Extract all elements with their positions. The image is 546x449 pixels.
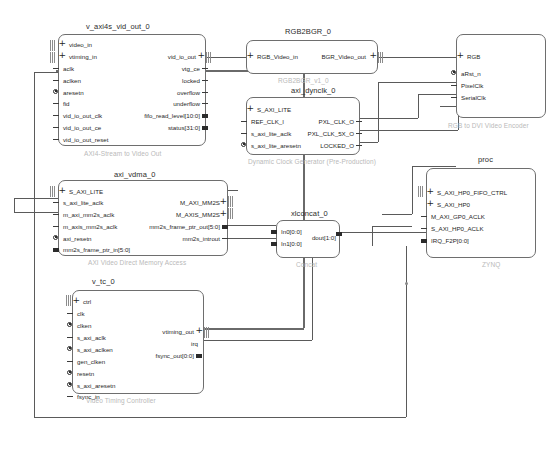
pin-mm2s-frame-ptr-out[interactable] (222, 223, 229, 230)
pin-dout[interactable] (336, 230, 343, 237)
port-arst-n: aRst_n (461, 70, 481, 77)
iface-stub-vtiming-in (50, 52, 55, 63)
pin-clk[interactable] (67, 310, 74, 317)
pin-bgr-video-out[interactable] (370, 53, 377, 60)
pin-s-axi-aresetn[interactable] (67, 381, 74, 388)
pin-vid-io-out[interactable] (198, 53, 205, 60)
pin-serialclk[interactable] (451, 94, 458, 101)
pin-s-axi-aclk[interactable] (67, 334, 74, 341)
pin-m-axi-mm2s[interactable] (220, 199, 227, 206)
pin-pxl-clk-o[interactable] (356, 118, 363, 125)
pin-pixelclk[interactable] (451, 82, 458, 89)
port-gen-clken: gen_clken (77, 358, 105, 365)
iface-stub-bgr-video-out (378, 52, 383, 63)
wire-vdma-maxis (228, 190, 238, 191)
pin-in0[interactable] (271, 228, 278, 235)
port-mm2s-frame-ptr-in: mm2s_frame_ptr_in[5:0] (63, 246, 130, 253)
wire-rail-bottom (34, 417, 406, 418)
pin-vtg-ce[interactable] (202, 65, 209, 72)
pin-rgb[interactable] (457, 53, 464, 60)
pin-resetn[interactable] (67, 369, 74, 376)
pin-s-axi-aclken[interactable] (67, 345, 74, 352)
port-serialclk: SerialClk (461, 94, 486, 101)
port-clk: clk (77, 310, 85, 317)
pin-s-axi-lite-aresetn[interactable] (241, 141, 248, 148)
pin-rgb-video-in[interactable] (247, 53, 254, 60)
port-vid-io-out: vid_io_out (100, 53, 196, 60)
pin-axi-resetn[interactable] (53, 234, 60, 241)
wire-vdma-clk-v (14, 198, 15, 212)
port-m-axis-mm2s: M_AXIS_MM2S (120, 211, 220, 218)
pin-mm2s-frame-ptr-in[interactable] (53, 246, 60, 253)
wire-vdma-maxi-clk (14, 198, 58, 199)
pin-m-axis-mm2s[interactable] (220, 211, 227, 218)
pin-s-axi-lite-aclk[interactable] (241, 130, 248, 137)
pin-vid-io-out-ce[interactable] (53, 124, 60, 131)
port-in1: In1[0:0] (281, 240, 302, 247)
block-title-v-tc: v_tc_0 (92, 277, 115, 286)
pin-pxl-clk-5x-o[interactable] (356, 130, 363, 137)
pin-locked[interactable] (202, 77, 209, 84)
pin-s-axi-lite-aclk-vdma[interactable] (53, 199, 60, 206)
port-dout: dout[1:0] (300, 234, 336, 241)
pin-s-axi-lite-dynclk[interactable] (247, 106, 254, 113)
pin-overflow[interactable] (202, 89, 209, 96)
pin-aresetn[interactable] (53, 88, 60, 95)
port-ctrl: ctrl (83, 298, 91, 305)
wire-zynq-clk-h (412, 166, 456, 167)
pin-in1[interactable] (271, 240, 278, 247)
pin-s-axi-lite-vdma[interactable] (59, 188, 66, 195)
wire-locked-h (378, 82, 456, 83)
iface-stub-m-axi-mm2s (228, 196, 233, 207)
iface-stub-vtiming-out (204, 327, 209, 338)
port-pxl-clk-5x-o: PXL_CLK_5X_O (258, 130, 354, 137)
block-subtitle-xlconcat: Concat (296, 261, 317, 268)
wire-rail-left-vertical (34, 72, 35, 417)
pin-s-axi-hp0-aclk[interactable] (421, 225, 428, 232)
block-subtitle-axi-vdma: AXI Video Direct Memory Access (88, 259, 186, 266)
wire-vidout-to-rgb2bgr (206, 57, 246, 58)
port-fifo-read-level: fifo_read_level[10:0] (92, 112, 200, 119)
pin-status[interactable] (202, 124, 209, 131)
pin-arst-n[interactable] (451, 69, 458, 76)
pin-fid[interactable] (53, 100, 60, 107)
pin-m-axi-gp0-aclk[interactable] (421, 213, 428, 220)
port-m-axi-gp0-aclk: M_AXI_GP0_ACLK (431, 213, 485, 220)
pin-m-axis-mm2s-aclk[interactable] (53, 223, 60, 230)
pin-video-in[interactable] (59, 41, 66, 48)
wire-locked-v (378, 82, 379, 142)
pin-m-axi-mm2s-aclk[interactable] (53, 211, 60, 218)
pin-fifo-read-level[interactable] (202, 112, 209, 119)
pin-ref-clk-i[interactable] (241, 118, 248, 125)
pin-vtiming-out[interactable] (196, 328, 203, 335)
pin-clken[interactable] (67, 321, 74, 328)
pin-aclken[interactable] (53, 77, 60, 84)
pin-vtiming-in[interactable] (59, 53, 66, 60)
port-pixelclk: PixelClk (461, 82, 483, 89)
block-subtitle-rgb2dvi: RGB to DVI Video Encoder (448, 122, 529, 129)
block-title-rgb2bgr: RGB2BGR_0 (285, 27, 331, 36)
pin-fsync-in[interactable] (67, 393, 74, 400)
port-fsync-out: fsync_out[0:0] (102, 352, 194, 359)
pin-irq-f2p[interactable] (421, 237, 428, 244)
pin-vid-io-out-clk[interactable] (53, 112, 60, 119)
pin-mm2s-introut[interactable] (222, 235, 229, 242)
pin-ctrl[interactable] (73, 298, 80, 305)
iface-stub-ctrl (66, 295, 71, 306)
block-title-axi-vdma: axi_vdma_0 (114, 170, 155, 179)
pin-s-axi-hp0-fifo-ctrl[interactable] (427, 189, 434, 196)
pin-gen-clken[interactable] (67, 358, 74, 365)
port-s-axi-aclk: s_axi_aclk (77, 334, 106, 341)
wire-rail-left-top (34, 72, 58, 73)
port-vtg-ce: vtg_ce (100, 65, 200, 72)
port-irq: irq (110, 340, 198, 347)
pin-aclk[interactable] (53, 65, 60, 72)
port-s-axi-hp0-aclk: S_AXI_HP0_ACLK (431, 225, 484, 232)
pin-underflow[interactable] (202, 100, 209, 107)
wire-rgb2bgr-to-dvi (378, 57, 456, 58)
pin-vid-io-out-reset[interactable] (53, 136, 60, 143)
pin-fsync-out[interactable] (196, 352, 203, 359)
pin-s-axi-hp0[interactable] (427, 201, 434, 208)
pin-locked-o[interactable] (356, 142, 363, 149)
